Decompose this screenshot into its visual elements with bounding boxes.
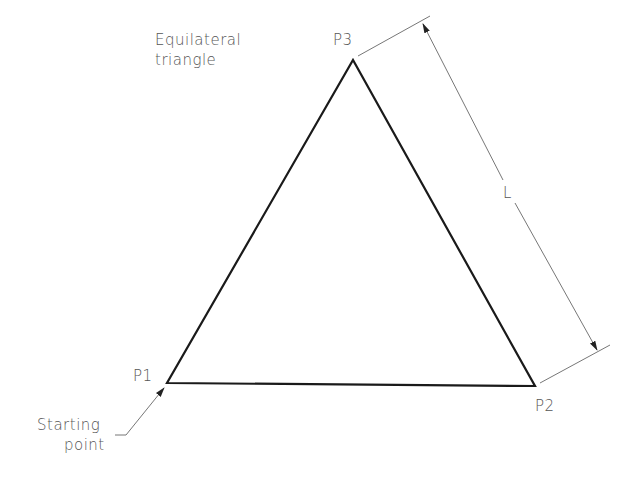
- dimension-label-l: L: [503, 184, 512, 202]
- equilateral-triangle: [167, 60, 535, 386]
- start-note-line-1: Starting: [37, 416, 100, 434]
- starting-point-leader: [115, 388, 164, 435]
- dimension-line-lower: [515, 203, 597, 350]
- triangle-diagram: Equilateral triangle P3 P1 P2 L Starting…: [0, 0, 638, 485]
- title-line-1: Equilateral: [155, 31, 241, 49]
- vertex-label-p1: P1: [133, 367, 153, 385]
- title-line-2: triangle: [155, 51, 216, 69]
- dimension-line-upper: [423, 24, 503, 180]
- extension-line-top: [358, 16, 430, 56]
- start-note-line-2: point: [64, 436, 105, 454]
- vertex-label-p3: P3: [333, 31, 353, 49]
- vertex-label-p2: P2: [535, 397, 555, 415]
- extension-line-bottom: [540, 345, 610, 383]
